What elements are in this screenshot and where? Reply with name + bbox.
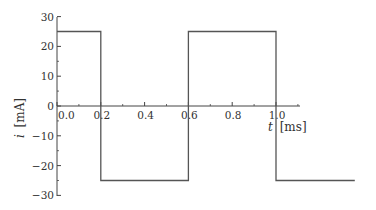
y-tick-label: −20 xyxy=(32,160,54,172)
square-wave-chart: 3020100−10−20−30 0.00.20.40.60.81.0 t [m… xyxy=(0,0,376,210)
y-tick-label: −10 xyxy=(32,130,54,142)
x-tick-label: 0.0 xyxy=(58,109,75,121)
x-tick-label: 0.8 xyxy=(225,109,242,121)
y-tick-label: 20 xyxy=(41,40,54,52)
x-tick-label: 0.4 xyxy=(137,109,154,121)
y-tick-label: 30 xyxy=(41,11,54,23)
y-tick-label: −30 xyxy=(32,189,54,201)
x-tick-label: 0.6 xyxy=(181,109,198,121)
chart-svg: 3020100−10−20−30 0.00.20.40.60.81.0 t [m… xyxy=(0,0,376,210)
x-tick-label: 0.2 xyxy=(93,109,110,121)
x-axis-label: t [ms] xyxy=(268,120,307,134)
x-axis: 0.00.20.40.60.81.0 xyxy=(57,102,300,121)
y-tick-label: 10 xyxy=(41,70,54,82)
y-axis-label: i [mA] xyxy=(13,98,27,138)
y-tick-label: 0 xyxy=(47,100,54,112)
